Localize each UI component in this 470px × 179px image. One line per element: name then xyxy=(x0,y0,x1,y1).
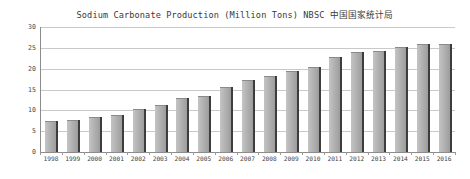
x-tick xyxy=(106,152,107,155)
x-tick xyxy=(324,152,325,155)
x-tick xyxy=(258,152,259,155)
x-tick xyxy=(40,152,41,155)
x-tick xyxy=(237,152,238,155)
x-tick xyxy=(215,152,216,155)
x-tick xyxy=(149,152,150,155)
x-tick xyxy=(455,152,456,155)
x-tick xyxy=(302,152,303,155)
x-tick xyxy=(389,152,390,155)
x-tick xyxy=(171,152,172,155)
chart-screenshot: Sodium Carbonate Production (Million Ton… xyxy=(0,0,470,179)
x-tick xyxy=(280,152,281,155)
x-tick xyxy=(433,152,434,155)
x-tick xyxy=(62,152,63,155)
x-tick xyxy=(411,152,412,155)
x-tick xyxy=(84,152,85,155)
x-tick xyxy=(368,152,369,155)
x-axis-tick-labels: 1998199920002001200220032004200520062007… xyxy=(0,0,470,179)
x-tick xyxy=(193,152,194,155)
x-tick xyxy=(346,152,347,155)
x-tick xyxy=(127,152,128,155)
x-tick-label: 2016 xyxy=(431,156,457,162)
